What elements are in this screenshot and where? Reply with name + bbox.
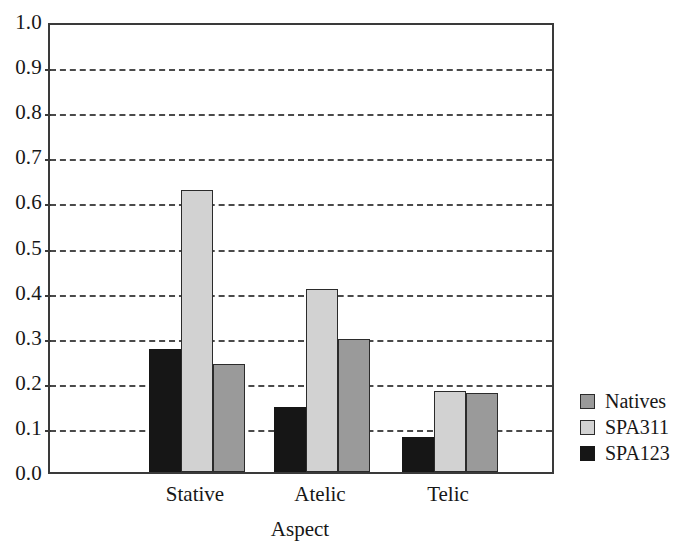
bar-stative-natives [213, 364, 245, 472]
y-tick-mark [45, 204, 51, 206]
legend-swatch-icon-spa311 [580, 420, 595, 435]
y-tick-mark [45, 250, 51, 252]
y-tick-mark [45, 340, 51, 342]
bar-telic-spa123 [402, 437, 434, 472]
y-tick-mark [45, 295, 51, 297]
x-axis-category-label-telic: Telic [378, 483, 518, 505]
y-tick-mark [45, 159, 51, 161]
y-axis-tick-label: 0.3 [0, 328, 42, 349]
y-axis-tick-label: 0.8 [0, 102, 42, 123]
y-axis-tick-label: 0.4 [0, 283, 42, 304]
y-gridline [50, 69, 552, 71]
y-gridline [50, 340, 552, 342]
chart-legend: NativesSPA311SPA123 [580, 388, 687, 466]
y-gridline [50, 204, 552, 206]
y-axis-tick-label: 0.5 [0, 238, 42, 259]
y-axis-tick-label: 0.0 [0, 463, 42, 484]
x-axis-category-label-stative: Stative [125, 483, 265, 505]
bar-atelic-spa123 [274, 407, 306, 472]
y-axis-tick-label: 0.1 [0, 418, 42, 439]
y-axis-tick-label: 0.6 [0, 192, 42, 213]
y-tick-mark [45, 430, 51, 432]
y-tick-mark [45, 114, 51, 116]
y-axis-tick-label: 0.7 [0, 147, 42, 168]
y-tick-mark [45, 69, 51, 71]
legend-item-natives: Natives [580, 388, 687, 414]
bar-telic-natives [466, 393, 498, 472]
bar-telic-spa311 [434, 391, 466, 472]
plot-area [48, 23, 554, 474]
y-gridline [50, 385, 552, 387]
legend-item-spa123: SPA123 [580, 440, 687, 466]
bar-chart-figure: NativesSPA311SPA123 Aspect 0.00.10.20.30… [0, 0, 687, 547]
bar-atelic-natives [338, 339, 370, 472]
bar-stative-spa123 [149, 349, 181, 472]
legend-label: Natives [605, 391, 666, 412]
y-tick-mark [45, 385, 51, 387]
y-gridline [50, 250, 552, 252]
legend-swatch-icon-spa123 [580, 446, 595, 461]
bar-stative-spa311 [181, 190, 213, 472]
y-gridline [50, 295, 552, 297]
bar-atelic-spa311 [306, 289, 338, 472]
x-axis-title: Aspect [0, 518, 600, 540]
y-gridline [50, 159, 552, 161]
y-axis-tick-label: 1.0 [0, 12, 42, 33]
legend-label: SPA311 [605, 417, 669, 438]
x-axis-category-label-atelic: Atelic [250, 483, 390, 505]
legend-item-spa311: SPA311 [580, 414, 687, 440]
y-axis-tick-label: 0.9 [0, 57, 42, 78]
legend-label: SPA123 [605, 443, 670, 464]
y-gridline [50, 114, 552, 116]
y-axis-tick-label: 0.2 [0, 373, 42, 394]
legend-swatch-icon-natives [580, 394, 595, 409]
